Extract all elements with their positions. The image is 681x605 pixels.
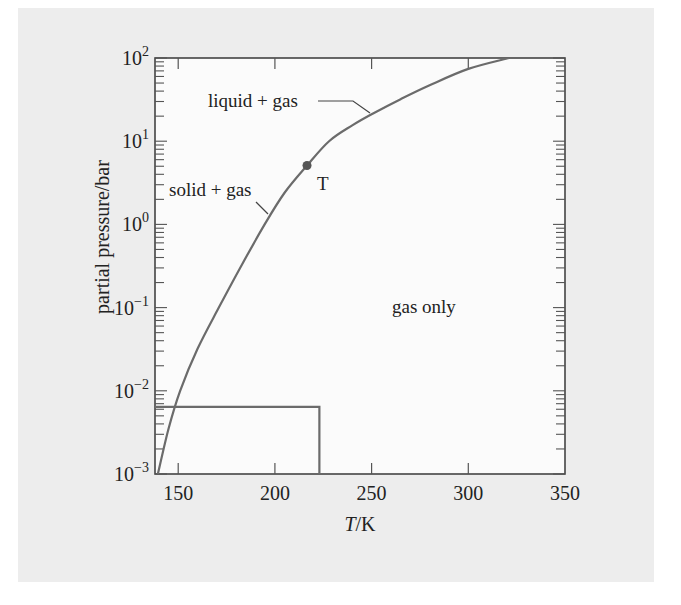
solid-gas-label: solid + gas [169,179,252,200]
triple-point-label: T [317,173,329,194]
y-tick-label: 10−2 [114,377,149,402]
y-tick-label: 100 [122,210,149,235]
x-tick-label: 200 [260,482,290,504]
liquid-gas-label: liquid + gas [208,90,298,111]
y-tick-label: 10−1 [114,294,149,319]
x-axis-label-unit: /K [356,513,377,535]
y-axis-label: partial pressure/bar [91,160,114,314]
gas-only-label: gas only [392,296,456,317]
x-tick-label: 250 [357,482,387,504]
x-tick-label: 150 [163,482,193,504]
x-tick-label: 300 [453,482,483,504]
y-tick-label: 101 [122,127,149,152]
phase-diagram-chart: 15020025030035010−310−210−1100101102 par… [0,0,681,605]
triple-point-marker [303,161,312,170]
x-tick-label: 350 [550,482,580,504]
y-tick-label: 102 [122,44,149,69]
x-axis-label: T/K [344,513,376,535]
y-tick-label: 10−3 [114,460,149,485]
